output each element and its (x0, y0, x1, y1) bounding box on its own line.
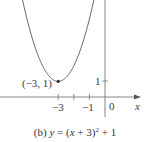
caption-eq: = ( (54, 126, 69, 138)
caption-plus3: + 3) (75, 126, 96, 138)
x-tick-label-neg1: −1 (82, 102, 94, 113)
x-axis-label: x (135, 101, 140, 112)
caption-prefix: (b) (34, 126, 50, 138)
parabola-curve (22, 0, 95, 81)
x-axis-arrow-icon (134, 95, 141, 100)
origin-label: 0 (109, 101, 115, 112)
vertex-point (57, 80, 60, 83)
y-tick-label-1: 1 (95, 76, 101, 87)
vertex-label: (−3, 1) (22, 78, 52, 89)
chart-caption: (b) y = (x + 3)2 + 1 (0, 126, 150, 138)
parabola-plot (0, 0, 150, 142)
caption-tail: + 1 (99, 126, 116, 138)
x-tick-label-neg3: −3 (52, 102, 64, 113)
